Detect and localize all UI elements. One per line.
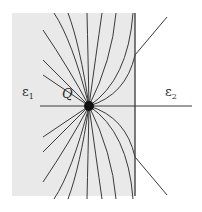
epsilon-2-label: ε2 xyxy=(165,84,177,101)
transmitted-field-line xyxy=(135,157,167,195)
transmitted-field-line xyxy=(135,17,167,55)
field-lines-diagram: ε1 Q ε2 xyxy=(0,0,202,212)
dielectric-region-1 xyxy=(12,13,135,196)
charge-label: Q xyxy=(62,86,73,101)
point-charge xyxy=(84,101,94,111)
